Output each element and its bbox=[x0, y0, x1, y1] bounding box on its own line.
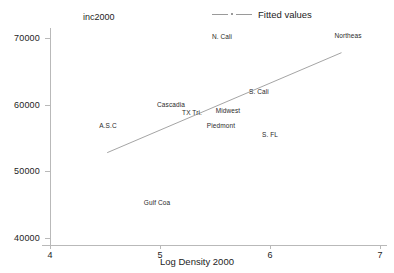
point-label-asc: A.S.C bbox=[99, 122, 116, 129]
y-tick-label-70000: 70000 bbox=[0, 33, 40, 43]
x-tick-mark bbox=[270, 245, 271, 249]
point-label-gulf-coa: Gulf Coa bbox=[144, 199, 170, 206]
point-label-n-cali: N. Cali bbox=[212, 33, 232, 40]
scatter-plot-figure: inc2000 Fitted values 70000 60000 50000 … bbox=[0, 0, 394, 273]
x-tick-mark bbox=[380, 245, 381, 249]
y-axis-line bbox=[50, 28, 51, 246]
y-axis-title: inc2000 bbox=[83, 12, 115, 22]
x-tick-mark bbox=[50, 245, 51, 249]
legend-item-fitted-values: Fitted values bbox=[258, 9, 312, 20]
point-label-cascadia: Cascadia bbox=[157, 101, 185, 108]
point-label-s-cali: S. Cali bbox=[249, 88, 269, 95]
x-axis-title: Log Density 2000 bbox=[0, 256, 394, 267]
x-axis-line bbox=[42, 245, 387, 246]
point-label-s-fl: S. FL bbox=[262, 131, 278, 138]
y-tick-mark bbox=[45, 171, 50, 172]
legend-line-marker-icon bbox=[212, 11, 252, 18]
y-tick-mark bbox=[45, 105, 50, 106]
fitted-values-line bbox=[0, 0, 394, 273]
y-tick-label-40000: 40000 bbox=[0, 233, 40, 243]
x-tick-mark bbox=[160, 245, 161, 249]
point-label-piedmont: Piedmont bbox=[207, 122, 235, 129]
point-label-tx-tri: TX Tri. bbox=[182, 109, 202, 116]
y-tick-label-50000: 50000 bbox=[0, 166, 40, 176]
y-tick-label-60000: 60000 bbox=[0, 100, 40, 110]
plot-area: N. Cali Northeas S. Cali Cascadia TX Tri… bbox=[0, 0, 394, 273]
point-label-northeas: Northeas bbox=[334, 32, 361, 39]
y-tick-mark bbox=[45, 38, 50, 39]
point-label-midwest: Midwest bbox=[216, 107, 241, 114]
legend: Fitted values bbox=[212, 9, 312, 20]
y-tick-mark bbox=[45, 238, 50, 239]
